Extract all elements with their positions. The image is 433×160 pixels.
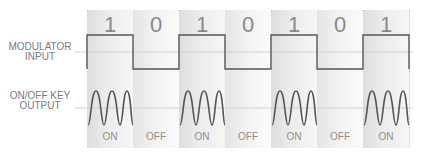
state-label: OFF bbox=[225, 131, 271, 142]
state-label: ON bbox=[271, 131, 317, 142]
state-label: OFF bbox=[133, 131, 179, 142]
state-label: ON bbox=[363, 131, 409, 142]
state-label: OFF bbox=[317, 131, 363, 142]
state-label: ON bbox=[87, 131, 133, 142]
state-label: ON bbox=[179, 131, 225, 142]
